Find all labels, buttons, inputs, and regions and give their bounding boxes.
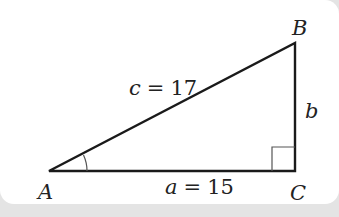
angle-a-arc [84, 155, 88, 171]
side-label-c: c=17 [129, 76, 197, 100]
triangle-diagram: A C B b c=17 a=15 [0, 0, 339, 217]
side-label-b: b [305, 99, 318, 123]
vertex-label-c: C [290, 181, 306, 205]
vertex-label-b: B [291, 16, 307, 40]
right-angle-marker [272, 147, 295, 171]
side-label-a: a=15 [165, 175, 234, 199]
vertex-label-a: A [36, 180, 53, 204]
triangle-abc [49, 43, 295, 171]
